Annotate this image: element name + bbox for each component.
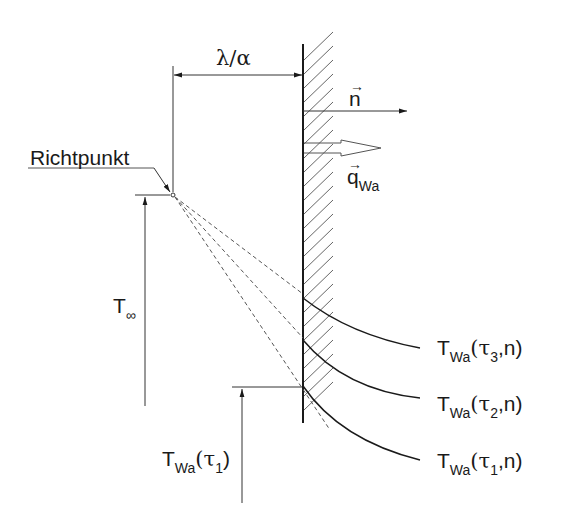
diagram-graphics — [0, 0, 567, 519]
t-wall-tau1-label: TWa(τ1) — [162, 448, 230, 470]
heat-flux-label: →qWa — [347, 166, 379, 187]
wall-hatching — [304, 32, 333, 410]
richtpunkt-point — [171, 193, 175, 197]
normal-vector-label: →n — [349, 88, 361, 109]
curve-label-tau3: TWa(τ3,n) — [437, 337, 522, 359]
heat-transfer-diagram: λ/α Richtpunkt →n →qWa T∞ TWa(τ1) TWa(τ3… — [0, 0, 567, 519]
curve-label-tau2: TWa(τ2,n) — [437, 393, 522, 415]
curve-label-tau1: TWa(τ1,n) — [437, 450, 522, 472]
temperature-curves — [303, 298, 420, 460]
tangent-lines — [175, 197, 330, 430]
richtpunkt-label: Richtpunkt — [30, 147, 129, 168]
dimension-label: λ/α — [216, 48, 251, 69]
t-inf-label: T∞ — [113, 295, 136, 316]
heat-flux-arrow — [304, 140, 381, 156]
